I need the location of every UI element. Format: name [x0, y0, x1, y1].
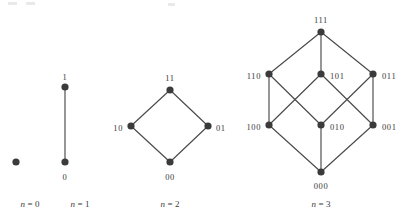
lattice-vertex — [317, 70, 324, 77]
lattice-vertex — [369, 121, 376, 128]
diagram-group-n2: 11100100 — [113, 73, 225, 182]
vertex-label: 00 — [165, 172, 175, 182]
diagram-caption-n1: n= 1 — [71, 199, 90, 209]
caption-variable: n — [312, 199, 317, 209]
vertex-label: 100 — [246, 122, 261, 132]
caption-value: = 3 — [319, 199, 331, 209]
caption-group: n= 0n= 1n= 2n= 3 — [21, 199, 331, 209]
lattice-edge — [131, 90, 170, 126]
lattice-vertex — [12, 158, 19, 165]
lattice-vertex — [166, 86, 173, 93]
caption-variable: n — [161, 199, 166, 209]
caption-variable: n — [21, 199, 26, 209]
vertex-label: 10 — [113, 123, 123, 133]
lattice-edge — [170, 90, 208, 126]
lattice-edge — [269, 125, 321, 172]
caption-variable: n — [71, 199, 76, 209]
lattice-vertex — [317, 168, 324, 175]
caption-value: = 1 — [78, 199, 90, 209]
lattice-vertex — [204, 122, 211, 129]
diagram-caption-n0: n= 0 — [21, 199, 40, 209]
vertex-label: 001 — [382, 122, 397, 132]
vertex-label: 110 — [247, 71, 261, 81]
vertex-label: 111 — [314, 15, 328, 25]
lattice-edge — [321, 32, 373, 74]
diagram-group-n0 — [12, 158, 19, 165]
lattice-edge — [321, 125, 373, 172]
scan-artifact — [8, 2, 17, 5]
vertex-label: 01 — [216, 123, 226, 133]
lattice-vertex — [317, 121, 324, 128]
lattice-edge — [269, 32, 321, 74]
caption-value: = 0 — [28, 199, 40, 209]
lattice-diagram-canvas: 10 11100100 111110101011100010001000 n= … — [0, 0, 408, 220]
scanner-specks — [8, 2, 175, 6]
lattice-vertex — [265, 70, 272, 77]
lattice-vertex — [265, 121, 272, 128]
vertex-label: 101 — [330, 71, 345, 81]
diagram-group-n3: 111110101011100010001000 — [246, 15, 396, 191]
scan-artifact — [26, 2, 35, 5]
lattice-edge — [170, 126, 208, 162]
vertex-label: 1 — [63, 72, 68, 82]
vertex-label: 010 — [330, 122, 345, 132]
vertex-label: 11 — [165, 73, 174, 83]
vertex-label: 000 — [314, 181, 329, 191]
vertex-label: 0 — [63, 172, 68, 182]
diagram-caption-n2: n= 2 — [161, 199, 180, 209]
diagram-caption-n3: n= 3 — [312, 199, 331, 209]
boolean-lattice-figure: 10 11100100 111110101011100010001000 n= … — [0, 0, 408, 220]
scan-artifact — [168, 3, 175, 6]
lattice-vertex — [127, 122, 134, 129]
caption-value: = 2 — [168, 199, 180, 209]
lattice-vertex — [61, 158, 68, 165]
diagram-group-n1: 10 — [61, 72, 68, 182]
vertex-label: 011 — [382, 71, 396, 81]
lattice-vertex — [317, 28, 324, 35]
lattice-vertex — [166, 158, 173, 165]
lattice-vertex — [369, 70, 376, 77]
lattice-edge — [131, 126, 170, 162]
lattice-vertex — [61, 83, 68, 90]
